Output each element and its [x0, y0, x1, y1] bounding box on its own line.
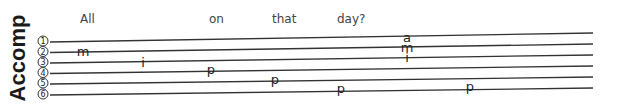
fingering: i: [141, 55, 145, 70]
svg-text:1: 1: [40, 37, 45, 46]
fingering: p: [271, 72, 279, 87]
string-line-4: [50, 66, 593, 74]
fingering: p: [207, 62, 215, 77]
svg-text:5: 5: [40, 79, 45, 88]
string-line-2: [50, 44, 593, 53]
svg-text:3: 3: [40, 58, 45, 67]
string-line-3: [50, 55, 593, 63]
fingering: p: [337, 81, 345, 96]
svg-text:4: 4: [40, 69, 45, 78]
string-line-5: [50, 77, 593, 84]
fingering: m: [77, 44, 90, 59]
tab-staff: 1 2 3 4 5 6 m i p p p a m i p: [0, 0, 624, 107]
fingering: i: [405, 50, 409, 65]
string-line-6: [50, 88, 593, 95]
string-line-1: [50, 33, 593, 42]
svg-text:6: 6: [40, 90, 45, 99]
svg-text:2: 2: [40, 48, 45, 57]
fingering: p: [466, 79, 474, 94]
